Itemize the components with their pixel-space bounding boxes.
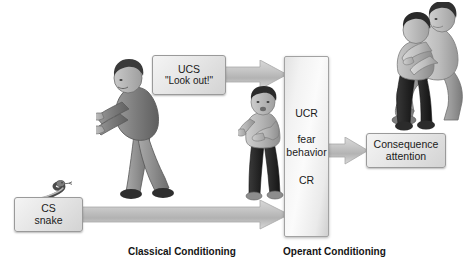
cs-line-1: CS [41, 203, 56, 215]
ucs-line-1: UCS [178, 64, 200, 76]
diagram-canvas: UCS "Look out!" CS snake UCR fear behavi… [0, 0, 474, 270]
consequence-label-box[interactable]: Consequence attention [366, 133, 446, 168]
cs-label-box[interactable]: CS snake [14, 197, 83, 232]
consequence-line-2: attention [386, 151, 426, 163]
caption-operant-conditioning: Operant Conditioning [283, 246, 386, 257]
response-cr: CR [299, 174, 314, 186]
ucs-line-2: "Look out!" [165, 75, 213, 86]
response-ucr: UCR [295, 107, 318, 119]
response-behavior: behavior [286, 146, 326, 158]
cs-line-2: snake [34, 215, 62, 227]
response-fear: fear [297, 133, 315, 145]
consequence-line-1: Consequence [374, 139, 439, 151]
arrow-response-to-consequence [327, 137, 369, 165]
response-label-box[interactable]: UCR fear behavior CR [284, 56, 329, 237]
adult-comforting-child-figure [386, 2, 472, 144]
ucs-label-box[interactable]: UCS "Look out!" [152, 55, 226, 95]
arrow-cs-to-response [78, 200, 290, 230]
caption-classical-conditioning: Classical Conditioning [128, 246, 236, 257]
frightened-child-figure [238, 86, 290, 204]
